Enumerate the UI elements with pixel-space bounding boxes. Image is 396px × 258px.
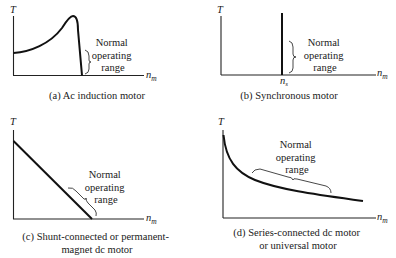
x-axis-label: nm bbox=[146, 69, 157, 83]
motor-torque-speed-diagram: T nm Normal operating range (a) Ac induc… bbox=[0, 0, 396, 258]
synchronous-speed-label: ns bbox=[280, 75, 288, 88]
y-axis-label: T bbox=[217, 4, 224, 15]
annotation: Normal operating range bbox=[92, 37, 134, 73]
panel-d-series-dc-motor: T nm Normal operating range (d) Series-c… bbox=[218, 116, 388, 251]
panel-c-shunt-dc-motor: T nm Normal operating range (c) Shunt-co… bbox=[10, 116, 172, 255]
panel-b-synchronous-motor: T nm ns Normal operating range (b) Synch… bbox=[217, 4, 388, 102]
x-axis-label: nm bbox=[377, 211, 388, 225]
caption: (a) Ac induction motor bbox=[49, 90, 145, 102]
panel-a-ac-induction-motor: T nm Normal operating range (a) Ac induc… bbox=[10, 4, 157, 102]
y-axis-label: T bbox=[10, 116, 17, 127]
annotation: Normal operating range bbox=[85, 169, 127, 205]
torque-speed-curve bbox=[14, 16, 83, 76]
x-axis-label: nm bbox=[377, 67, 388, 81]
y-axis-label: T bbox=[10, 4, 17, 15]
caption: (c) Shunt-connected or permanent- magnet… bbox=[22, 231, 171, 255]
caption: (d) Series-connected dc motor or univers… bbox=[233, 227, 362, 251]
range-brace bbox=[85, 50, 91, 74]
annotation: Normal operating range bbox=[304, 37, 346, 73]
y-axis-label: T bbox=[218, 116, 225, 127]
torque-speed-curve bbox=[14, 141, 93, 219]
caption: (b) Synchronous motor bbox=[240, 90, 338, 102]
x-axis-label: nm bbox=[146, 212, 157, 226]
annotation: Normal operating range bbox=[276, 139, 318, 175]
range-brace bbox=[289, 41, 296, 73]
